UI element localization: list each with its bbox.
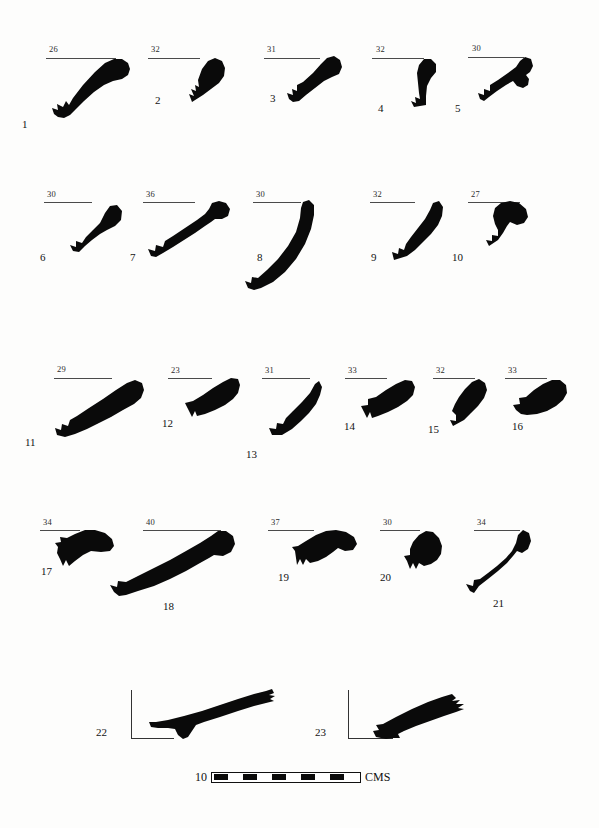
scale-segment <box>228 774 243 780</box>
item-number-16: 16 <box>512 421 523 432</box>
scale-segment <box>272 774 287 780</box>
scale-segment <box>315 774 330 780</box>
item-number-12: 12 <box>162 418 173 429</box>
scale-segment <box>214 774 229 780</box>
item-number-5: 5 <box>455 103 461 114</box>
item-number-9: 9 <box>371 252 377 263</box>
scale-left-label: 10 <box>195 771 207 783</box>
item-number-17: 17 <box>41 566 52 577</box>
diameter-label-15: 32 <box>436 366 445 375</box>
scale-right-label: CMS <box>365 771 390 783</box>
figure-caption-cutoff <box>0 818 599 828</box>
diameter-label-20: 30 <box>383 518 392 527</box>
sherd-profile-3 <box>287 55 343 103</box>
sherd-profile-7 <box>147 200 231 260</box>
diameter-label-10: 27 <box>471 190 480 199</box>
sherd-profile-15 <box>446 378 488 428</box>
item-number-13: 13 <box>246 449 257 460</box>
diameter-label-2: 32 <box>151 45 160 54</box>
diameter-label-5: 30 <box>472 44 481 53</box>
diameter-label-17: 34 <box>43 518 52 527</box>
sherd-profile-1 <box>50 57 132 119</box>
sherd-profile-13 <box>268 379 324 439</box>
item-number-19: 19 <box>278 572 289 583</box>
scale-segment <box>344 774 359 780</box>
sherd-profile-19 <box>292 529 358 571</box>
sherd-profile-14 <box>360 378 416 420</box>
scale-segment <box>286 774 301 780</box>
item-number-4: 4 <box>378 103 384 114</box>
scale-bar-group: 10 CMS <box>195 771 390 783</box>
sherd-profile-8 <box>245 198 315 290</box>
sherd-profile-23 <box>372 693 470 741</box>
diameter-label-11: 29 <box>57 365 66 374</box>
diameter-label-4: 32 <box>376 45 385 54</box>
item-number-18: 18 <box>163 601 174 612</box>
item-number-1: 1 <box>22 119 28 130</box>
sherd-profile-2 <box>184 56 228 104</box>
sherd-profile-11 <box>53 377 145 439</box>
diameter-label-21: 34 <box>477 518 486 527</box>
diameter-label-6: 30 <box>47 190 56 199</box>
figure-plate: 26 1 32 2 31 3 32 4 30 5 3 <box>0 0 599 828</box>
sherd-profile-4 <box>403 57 439 109</box>
diameter-label-13: 31 <box>265 366 274 375</box>
scale-segment <box>330 774 345 780</box>
diameter-label-12: 23 <box>171 366 180 375</box>
diameter-label-16: 33 <box>508 366 517 375</box>
sherd-profile-12 <box>183 377 241 419</box>
sherd-profile-10 <box>481 200 529 248</box>
item-number-10: 10 <box>452 252 463 263</box>
item-number-21: 21 <box>493 598 504 609</box>
item-number-14: 14 <box>344 421 355 432</box>
item-number-11: 11 <box>25 437 36 448</box>
sherd-profile-6 <box>67 201 123 255</box>
diameter-label-14: 33 <box>348 366 357 375</box>
item-number-2: 2 <box>155 95 161 106</box>
scale-segment <box>243 774 258 780</box>
item-number-6: 6 <box>40 252 46 263</box>
sherd-profile-18 <box>108 530 236 596</box>
sherd-profile-22 <box>148 689 278 743</box>
scale-bar <box>211 772 361 783</box>
sherd-profile-5 <box>478 55 534 105</box>
item-number-23: 23 <box>315 727 326 738</box>
sherd-profile-16 <box>512 378 568 418</box>
scale-segment <box>301 774 316 780</box>
item-number-15: 15 <box>428 424 439 435</box>
item-number-22: 22 <box>96 727 107 738</box>
sherd-profile-21 <box>464 529 532 595</box>
diameter-label-1: 26 <box>49 45 58 54</box>
item-number-20: 20 <box>380 572 391 583</box>
scale-segment <box>257 774 272 780</box>
diameter-label-9: 32 <box>373 190 382 199</box>
sherd-profile-9 <box>390 200 444 262</box>
sherd-profile-17 <box>55 529 115 569</box>
diameter-label-7: 36 <box>146 190 155 199</box>
sherd-profile-20 <box>402 529 444 573</box>
item-number-3: 3 <box>270 93 276 104</box>
diameter-label-19: 37 <box>271 518 280 527</box>
diameter-label-18: 40 <box>146 518 155 527</box>
item-number-7: 7 <box>130 252 136 263</box>
diameter-label-3: 31 <box>267 45 276 54</box>
